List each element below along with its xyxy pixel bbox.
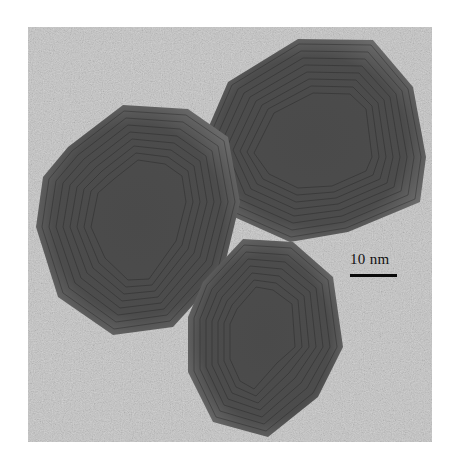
scale-bar (350, 274, 397, 277)
tem-micrograph: 10 nm (28, 27, 432, 442)
micrograph-image (28, 27, 432, 442)
scale-bar-label: 10 nm (350, 251, 389, 268)
